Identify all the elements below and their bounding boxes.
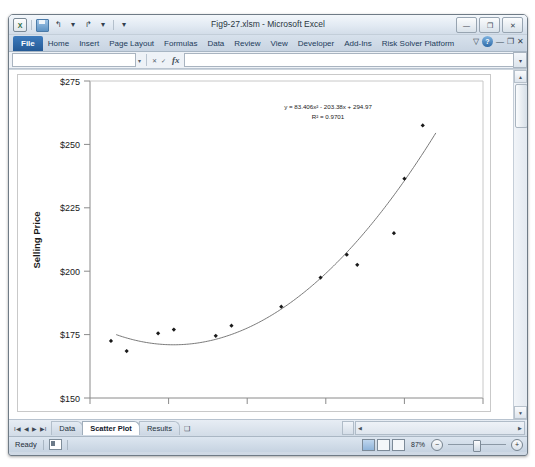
data-point[interactable] xyxy=(421,123,425,127)
expand-formula-bar-icon[interactable]: ▾ xyxy=(513,52,527,68)
maximize-workbook-icon[interactable]: ❐ xyxy=(507,38,514,46)
y-tick-label: $200 xyxy=(60,267,80,277)
ribbon-tab-page-layout[interactable]: Page Layout xyxy=(104,36,159,51)
help-icon[interactable]: ? xyxy=(482,36,493,47)
ribbon-tab-add-ins[interactable]: Add-Ins xyxy=(339,36,377,51)
zoom-out-button[interactable]: − xyxy=(431,439,443,451)
data-point[interactable] xyxy=(156,331,160,335)
first-sheet-icon[interactable]: I◀ xyxy=(14,425,21,432)
zoom-in-button[interactable]: + xyxy=(511,439,523,451)
x-tick-label: 2.400 xyxy=(472,407,488,409)
x-tick-label: 1.500 xyxy=(236,407,259,409)
restore-button[interactable]: ❐ xyxy=(479,17,500,33)
data-point[interactable] xyxy=(109,339,113,343)
page-layout-view-icon[interactable] xyxy=(377,439,390,451)
y-tick-label: $175 xyxy=(60,330,80,340)
divider xyxy=(146,54,147,66)
data-point-group[interactable] xyxy=(109,123,425,353)
data-point[interactable] xyxy=(125,349,129,353)
insert-worksheet-icon[interactable]: ❑ xyxy=(179,422,195,435)
trendline-equation-label: y = 83.406x² - 203.38x + 294.97 xyxy=(284,103,372,110)
restore-workbook-icon[interactable]: — xyxy=(496,38,504,46)
title-bar: X ↰ ▾ ↱ ▾ ▾ Fig9-27.xlsm - Microsoft Exc… xyxy=(9,15,527,35)
ribbon-tab-view[interactable]: View xyxy=(266,36,293,51)
sheet-navigation: I◀ ◀ ▶ ▶I xyxy=(9,425,51,432)
minimize-button[interactable]: — xyxy=(456,17,477,33)
ribbon-tabs: File Home Insert Page Layout Formulas Da… xyxy=(13,35,459,51)
data-point[interactable] xyxy=(229,324,233,328)
status-bar: Ready 87% − + xyxy=(9,436,527,452)
ribbon-tab-insert[interactable]: Insert xyxy=(74,36,104,51)
scroll-left-icon[interactable]: ◀ xyxy=(356,425,364,431)
x-tick-label: 0.900 xyxy=(79,407,102,409)
vertical-scrollbar[interactable]: ▲ ▼ xyxy=(513,70,527,419)
next-sheet-icon[interactable]: ▶ xyxy=(32,425,37,432)
record-macro-icon[interactable] xyxy=(49,439,62,450)
horizontal-scrollbar[interactable]: ◀ ▶ xyxy=(355,421,525,435)
ribbon-tab-file[interactable]: File xyxy=(13,36,43,51)
x-tick-label: 1.800 xyxy=(315,407,338,409)
scatter-chart[interactable]: $275 $250 $225 $200 $175 $150 0.900 xyxy=(17,74,491,412)
zoom-slider-thumb[interactable] xyxy=(473,440,481,452)
scroll-down-icon[interactable]: ▼ xyxy=(514,406,527,419)
x-tick-label: 1.200 xyxy=(157,407,180,409)
ribbon-tab-data[interactable]: Data xyxy=(202,36,229,51)
x-axis-ticks: 0.900 1.200 1.500 1.800 2.100 2.400 xyxy=(79,398,488,409)
name-box[interactable] xyxy=(12,53,136,67)
ribbon-tab-review[interactable]: Review xyxy=(229,36,265,51)
data-point[interactable] xyxy=(345,253,349,257)
data-point[interactable] xyxy=(214,334,218,338)
ribbon-controls: ▽ ? — ❐ ✕ xyxy=(473,36,524,47)
zoom-slider[interactable] xyxy=(448,440,506,450)
y-tick-label: $250 xyxy=(60,140,80,150)
status-mode-label: Ready xyxy=(9,440,43,449)
data-point[interactable] xyxy=(392,231,396,235)
vertical-scroll-thumb[interactable] xyxy=(515,84,528,128)
divider xyxy=(67,440,68,450)
worksheet-area: $275 $250 $225 $200 $175 $150 0.900 xyxy=(9,69,527,419)
formula-input[interactable] xyxy=(184,53,514,67)
trendline xyxy=(116,133,436,345)
data-point[interactable] xyxy=(402,177,406,181)
ribbon-tab-strip: File Home Insert Page Layout Formulas Da… xyxy=(9,35,527,52)
ribbon-tab-home[interactable]: Home xyxy=(43,36,74,51)
close-workbook-icon[interactable]: ✕ xyxy=(517,38,524,46)
cancel-entry-icon[interactable]: ✕ xyxy=(150,57,159,64)
y-tick-label: $150 xyxy=(60,394,80,404)
horizontal-split-handle[interactable] xyxy=(342,421,354,435)
view-mode-buttons: 87% − + xyxy=(362,439,527,451)
page-break-view-icon[interactable] xyxy=(392,439,405,451)
ribbon-tab-risk-solver-platform[interactable]: Risk Solver Platform xyxy=(377,36,459,51)
minimize-ribbon-icon[interactable]: ▽ xyxy=(473,38,479,46)
chart-canvas: $275 $250 $225 $200 $175 $150 0.900 xyxy=(18,75,488,409)
insert-function-icon[interactable]: fx xyxy=(168,55,184,65)
window-title: Fig9-27.xlsm - Microsoft Excel xyxy=(9,19,527,29)
zoom-level-label[interactable]: 87% xyxy=(407,441,429,448)
scroll-up-icon[interactable]: ▲ xyxy=(514,70,527,83)
window-controls: — ❐ ✕ xyxy=(456,17,523,33)
name-box-dropdown-icon[interactable]: ▾ xyxy=(136,57,143,64)
previous-sheet-icon[interactable]: ◀ xyxy=(24,425,29,432)
data-point[interactable] xyxy=(172,327,176,331)
scroll-right-icon[interactable]: ▶ xyxy=(516,425,524,431)
last-sheet-icon[interactable]: ▶I xyxy=(40,425,47,432)
excel-application-window: X ↰ ▾ ↱ ▾ ▾ Fig9-27.xlsm - Microsoft Exc… xyxy=(8,14,528,456)
y-tick-label: $275 xyxy=(60,77,80,87)
ribbon-tab-formulas[interactable]: Formulas xyxy=(159,36,202,51)
sheet-tab-bar: I◀ ◀ ▶ ▶I Data Scatter Plot Results ❑ ◀ … xyxy=(9,419,527,436)
trendline-r-squared-label: R² = 0.9701 xyxy=(312,113,345,120)
normal-view-icon[interactable] xyxy=(362,439,375,451)
close-button[interactable]: ✕ xyxy=(502,17,523,33)
formula-bar: ▾ ✕ ✓ fx ▾ xyxy=(9,52,527,69)
y-tick-label: $225 xyxy=(60,203,80,213)
y-axis-ticks: $275 $250 $225 $200 $175 $150 xyxy=(60,77,90,404)
divider xyxy=(43,440,44,450)
sheet-tab-data[interactable]: Data xyxy=(51,421,83,435)
ribbon-tab-developer[interactable]: Developer xyxy=(293,36,339,51)
y-axis-title: Selling Price xyxy=(31,211,42,268)
x-tick-label: 2.100 xyxy=(393,407,416,409)
sheet-tab-scatter-plot[interactable]: Scatter Plot xyxy=(82,421,140,435)
sheet-tab-results[interactable]: Results xyxy=(139,421,180,435)
data-point[interactable] xyxy=(355,263,359,267)
confirm-entry-icon[interactable]: ✓ xyxy=(159,57,168,64)
